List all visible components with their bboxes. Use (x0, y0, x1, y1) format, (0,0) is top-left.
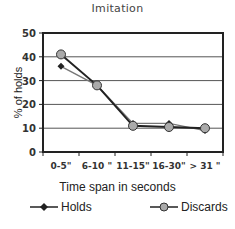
diamond-marker-icon (30, 201, 58, 213)
y-tick-label: 0 (29, 147, 36, 158)
circle-marker-icon (165, 123, 174, 132)
legend-label-holds: Holds (61, 200, 92, 214)
circle-marker-icon (93, 81, 102, 90)
line-chart: 010203040500-5"6-10 "11-15"16-30"> 31 "%… (0, 0, 235, 180)
legend-label-discards: Discards (181, 200, 228, 214)
legend-item-discards: Discards (150, 200, 228, 214)
legend-item-holds: Holds (30, 200, 92, 214)
circle-marker-icon (129, 121, 138, 130)
series-line-discards (61, 54, 205, 128)
legend: Holds Discards (0, 200, 235, 218)
x-tick-label: 11-15" (116, 161, 149, 171)
x-tick-label: 16-30" (152, 161, 185, 171)
diamond-marker-icon (58, 63, 65, 70)
y-axis-label: % of holds (12, 66, 24, 118)
x-tick-label: 6-10 " (82, 161, 112, 171)
plot-frame (43, 33, 223, 152)
x-tick-label: > 31 " (189, 161, 220, 171)
y-tick-label: 50 (22, 28, 36, 39)
y-tick-label: 40 (22, 52, 36, 63)
y-tick-label: 20 (22, 99, 36, 110)
circle-marker-icon (201, 124, 210, 133)
y-tick-label: 10 (22, 123, 36, 134)
x-axis-label: Time span in seconds (0, 180, 235, 194)
y-tick-label: 30 (22, 76, 36, 87)
circle-marker-icon (57, 50, 66, 59)
circle-marker-icon (150, 201, 178, 213)
x-tick-label: 0-5" (51, 161, 72, 171)
